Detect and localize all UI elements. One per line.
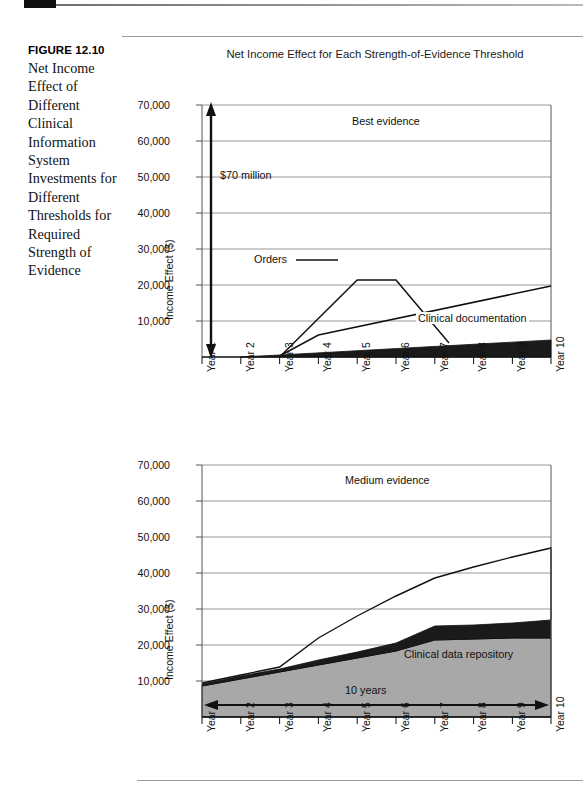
x-tick-year-1-medium: Year 1 <box>206 702 217 732</box>
x-tick-year-10-medium: Year 10 <box>555 697 566 732</box>
plot-area-best-evidence <box>0 90 583 430</box>
x-tick-year-9-medium: Year 9 <box>516 702 527 732</box>
x-tick-year-1: Year 1 <box>206 342 217 372</box>
x-tick-year-3: Year 3 <box>284 342 295 372</box>
best-evidence-label: Best evidence <box>352 115 420 127</box>
seventy-million-arrow <box>206 102 216 358</box>
x-tick-year-7: Year 7 <box>439 342 450 372</box>
chart-panel-best-evidence: Income Effect ($) 70,000 60,000 50,000 4… <box>0 90 583 430</box>
x-tick-year-9: Year 9 <box>516 342 527 372</box>
medium-evidence-label: Medium evidence <box>345 474 430 486</box>
ten-years-label: 10 years <box>345 684 386 696</box>
chart-panel-medium-evidence: Income Effect ($) 70,000 60,000 50,000 4… <box>0 450 583 790</box>
x-tick-year-2-medium: Year 2 <box>245 702 256 732</box>
figure-horizontal-rule <box>122 36 583 37</box>
orders-label: Orders <box>254 253 287 265</box>
chart-title: Net Income Effect for Each Strength-of-E… <box>190 48 560 60</box>
x-tick-year-8: Year 8 <box>477 342 488 372</box>
seventy-million-label: $70 million <box>220 169 272 181</box>
x-tick-year-2: Year 2 <box>245 342 256 372</box>
x-tick-year-6-medium: Year 6 <box>400 702 411 732</box>
plot-area-medium-evidence <box>0 450 583 790</box>
x-tick-year-4-medium: Year 4 <box>322 702 333 732</box>
x-tick-year-7-medium: Year 7 <box>439 702 450 732</box>
top-horizontal-rule <box>56 4 583 6</box>
x-tick-year-8-medium: Year 8 <box>477 702 488 732</box>
x-tick-year-5-medium: Year 5 <box>361 702 372 732</box>
x-tick-year-6: Year 6 <box>400 342 411 372</box>
figure-number: FIGURE 12.10 <box>28 44 120 56</box>
x-tick-year-10: Year 10 <box>555 337 566 372</box>
page-marker-block <box>24 0 56 8</box>
x-tick-year-5: Year 5 <box>361 342 372 372</box>
clinical-data-repository-label: Clinical data repository <box>404 648 513 660</box>
clinical-documentation-label: Clinical documentation <box>416 312 529 324</box>
x-tick-year-3-medium: Year 3 <box>284 702 295 732</box>
x-tick-year-4: Year 4 <box>322 342 333 372</box>
